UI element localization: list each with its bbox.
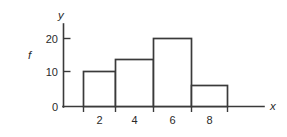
y-tick-label-0: 0 — [52, 101, 58, 113]
y-axis-top-label: y — [57, 9, 65, 21]
y-tick-label-10: 10 — [46, 66, 58, 78]
chart-figure: 20 10 0 2 4 6 8 y f x — [0, 0, 287, 137]
x-axis-label: x — [269, 100, 277, 112]
y-axis-label-f: f — [28, 49, 33, 61]
x-tick-label-6: 6 — [169, 114, 175, 126]
x-tick-label-8: 8 — [206, 114, 212, 126]
histogram-plot: 20 10 0 2 4 6 8 y f x — [0, 0, 287, 137]
bar-bin-1 — [84, 72, 116, 107]
bar-bin-4 — [192, 86, 228, 107]
y-tick-label-20: 20 — [46, 33, 58, 45]
bar-bin-3 — [154, 39, 192, 107]
x-tick-label-4: 4 — [131, 114, 137, 126]
bar-bin-2 — [116, 60, 154, 107]
x-tick-label-2: 2 — [96, 114, 102, 126]
